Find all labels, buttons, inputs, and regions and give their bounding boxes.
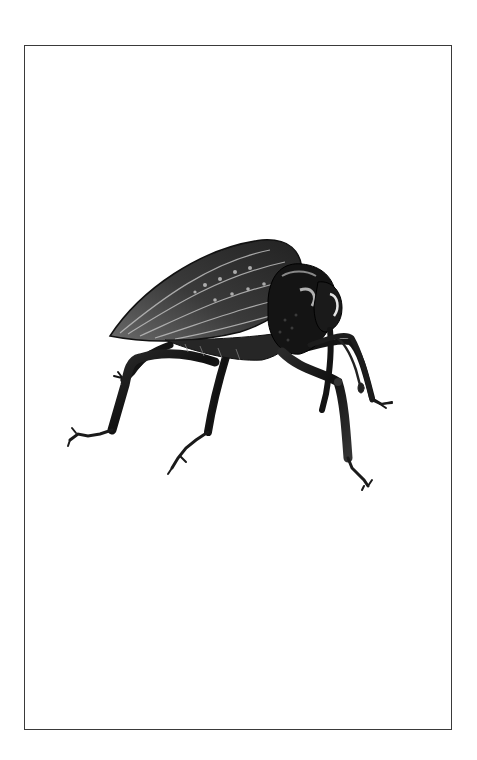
left-front-leg: [68, 354, 215, 446]
weevil-illustration: [0, 0, 477, 760]
middle-leg: [168, 350, 228, 474]
right-front-leg: [282, 352, 372, 490]
